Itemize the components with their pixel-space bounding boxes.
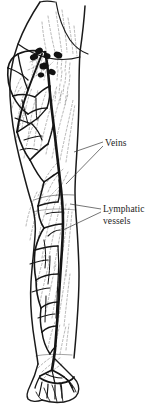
label-veins: Veins xyxy=(105,138,127,150)
label-lymphatic-line1: Lymphatic xyxy=(103,204,145,214)
label-veins-text: Veins xyxy=(105,138,127,148)
label-lymphatic-line2: vessels xyxy=(103,216,145,228)
anatomy-figure: Veins Lymphatic vessels xyxy=(0,0,156,408)
label-lymphatic-vessels: Lymphatic vessels xyxy=(103,204,145,227)
